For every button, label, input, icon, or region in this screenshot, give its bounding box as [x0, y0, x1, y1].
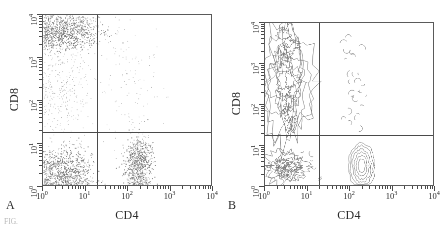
x-tick: [390, 186, 391, 189]
panel-a: 100100101101102102103103104104 CD4 CD8 A: [0, 0, 224, 225]
x-tick: [305, 186, 306, 189]
x-tick-label: 103: [164, 192, 176, 201]
y-tick-label: 103: [252, 63, 261, 75]
x-tick-label: 101: [301, 192, 313, 201]
y-tick-label: 101: [30, 143, 39, 155]
y-tick: [39, 27, 42, 28]
x-tick: [147, 186, 148, 189]
plot-area-b: [264, 22, 434, 186]
y-tick: [261, 174, 264, 175]
plot-area-a: [42, 14, 212, 186]
x-tick: [284, 186, 285, 189]
flow-cytometry-figure: 100100101101102102103103104104 CD4 CD8 A…: [0, 0, 448, 225]
y-tick: [261, 157, 264, 158]
y-tick: [261, 113, 264, 114]
x-tick: [72, 186, 73, 189]
x-tick: [83, 186, 84, 189]
x-tick-label: 102: [343, 192, 355, 201]
y-tick: [261, 92, 264, 93]
y-tick: [39, 156, 42, 157]
x-tick: [404, 186, 405, 189]
y-tick: [261, 28, 264, 29]
y-tick: [39, 160, 42, 161]
x-tick: [375, 186, 376, 189]
y-tick-label: 104: [30, 14, 39, 26]
y-tick: [261, 69, 264, 70]
y-tick: [39, 113, 42, 114]
x-tick: [290, 186, 291, 189]
contour-plot-canvas-b: [265, 23, 433, 185]
scatter-plot-canvas-a: [43, 15, 211, 185]
x-tick: [294, 186, 295, 189]
x-tick: [55, 186, 56, 189]
y-axis-title-a: CD8: [7, 70, 22, 130]
y-tick: [261, 65, 264, 66]
x-tick: [62, 186, 63, 189]
y-tick: [39, 21, 42, 22]
y-tick: [39, 70, 42, 71]
y-tick: [39, 147, 42, 148]
caption-fragment: FIG.: [4, 217, 244, 225]
x-tick: [195, 186, 196, 189]
y-tick: [261, 125, 264, 126]
x-tick-label: 104: [206, 192, 218, 201]
y-tick: [261, 34, 264, 35]
gate-line-vertical-b: [319, 23, 320, 185]
x-tick: [379, 186, 380, 189]
x-tick: [369, 186, 370, 189]
y-tick: [39, 36, 42, 37]
x-tick: [199, 186, 200, 189]
y-tick: [261, 116, 264, 117]
y-tick: [39, 150, 42, 151]
y-tick: [261, 38, 264, 39]
y-tick: [39, 102, 42, 103]
y-tick: [39, 67, 42, 68]
x-tick: [78, 186, 79, 189]
x-tick: [203, 186, 204, 189]
y-tick-label: 102: [30, 100, 39, 112]
x-tick: [425, 186, 426, 189]
x-tick: [327, 186, 328, 189]
x-tick: [421, 186, 422, 189]
x-tick-label: 102: [121, 192, 133, 201]
y-tick: [39, 87, 42, 88]
x-tick: [163, 186, 164, 189]
x-tick: [345, 186, 346, 189]
x-tick: [118, 186, 119, 189]
y-tick: [261, 120, 264, 121]
y-tick: [261, 161, 264, 162]
y-tick: [39, 31, 42, 32]
y-tick: [39, 59, 42, 60]
y-tick: [39, 61, 42, 62]
y-tick-label: 103: [30, 57, 39, 69]
y-tick: [39, 16, 42, 17]
x-tick: [210, 186, 211, 189]
y-tick: [39, 107, 42, 108]
y-tick: [39, 44, 42, 45]
x-tick: [165, 186, 166, 189]
y-tick: [261, 79, 264, 80]
y-tick: [261, 67, 264, 68]
x-tick: [208, 186, 209, 189]
y-tick: [39, 104, 42, 105]
y-tick: [39, 110, 42, 111]
x-tick: [140, 186, 141, 189]
panel-label-b: B: [228, 198, 237, 213]
x-tick-label: 101: [79, 192, 91, 201]
y-tick-label: 100: [252, 186, 261, 198]
y-tick: [261, 75, 264, 76]
x-tick: [110, 186, 111, 189]
y-tick: [261, 154, 264, 155]
y-tick: [261, 106, 264, 107]
x-tick: [427, 186, 428, 189]
x-tick: [412, 186, 413, 189]
gate-line-horizontal-b: [265, 135, 433, 136]
x-tick: [123, 186, 124, 189]
x-tick: [97, 186, 98, 189]
x-tick: [105, 186, 106, 189]
x-tick: [120, 186, 121, 189]
x-tick: [80, 186, 81, 189]
x-tick: [114, 186, 115, 189]
y-tick: [39, 153, 42, 154]
gate-line-horizontal-a: [43, 132, 211, 133]
